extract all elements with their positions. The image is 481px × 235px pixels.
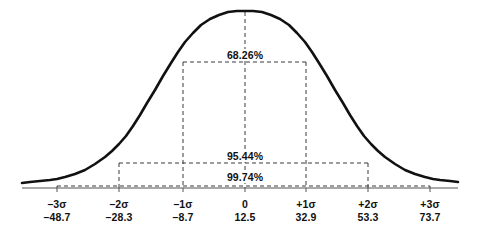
axis-tick-plus-3-sigma: +3σ 73.7 [420,198,441,224]
tick-sigma-label: –3σ [44,198,71,211]
tick-sigma-label: +1σ [296,198,317,211]
axis-tick-minus-2-sigma: –2σ –28.3 [106,198,133,224]
tick-sigma-label: –2σ [106,198,133,211]
tick-value-label: 53.3 [358,211,379,224]
tick-value-label: 12.5 [235,211,256,224]
tick-sigma-label: 0 [235,198,256,211]
tick-marks [57,188,430,192]
axis-tick-minus-1-sigma: –1σ –8.7 [173,198,194,224]
tick-value-label: 32.9 [296,211,317,224]
tick-value-label: –48.7 [44,211,71,224]
tick-value-label: 73.7 [420,211,441,224]
normal-distribution-chart: 68.26% 95.44% 99.74% –3σ –48.7 –2σ –28.3… [0,0,481,235]
axis-tick-zero: 0 12.5 [235,198,256,224]
axis-tick-plus-2-sigma: +2σ 53.3 [358,198,379,224]
tick-value-label: –28.3 [106,211,133,224]
tick-sigma-label: +3σ [420,198,441,211]
annotation-label-68: 68.26% [224,49,266,61]
tick-sigma-label: –1σ [173,198,194,211]
annotation-label-99: 99.74% [224,171,266,183]
tick-sigma-label: +2σ [358,198,379,211]
axis-tick-minus-3-sigma: –3σ –48.7 [44,198,71,224]
annotation-label-95: 95.44% [224,150,266,162]
tick-value-label: –8.7 [173,211,194,224]
axis-tick-plus-1-sigma: +1σ 32.9 [296,198,317,224]
